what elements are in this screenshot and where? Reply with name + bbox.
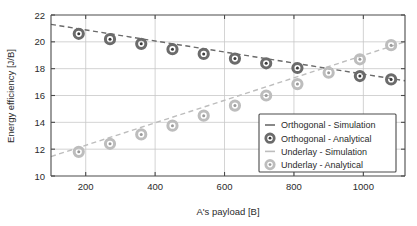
data-point-center	[265, 94, 268, 97]
legend-item-underlay-analytical[interactable]: Underlay - Analytical	[266, 160, 363, 170]
legend[interactable]: Orthogonal - SimulationOrthogonal - Anal…	[259, 114, 396, 172]
y-tick-label-10: 10	[34, 171, 45, 182]
x-tick-label-200: 200	[78, 181, 94, 192]
data-point-center	[296, 83, 299, 86]
data-point-center	[109, 142, 112, 145]
legend-item-underlay-simulation[interactable]: Underlay - Simulation	[265, 147, 367, 157]
y-tick-label-22: 22	[34, 10, 45, 21]
data-point-center	[265, 62, 268, 65]
data-point-center	[202, 52, 205, 55]
data-point-center	[202, 114, 205, 117]
data-point-center	[233, 104, 236, 107]
legend-label: Underlay - Simulation	[281, 147, 367, 157]
data-point-center	[327, 71, 330, 74]
data-point-center	[171, 124, 174, 127]
x-tick-label-600: 600	[217, 181, 233, 192]
legend-label: Orthogonal - Analytical	[281, 134, 372, 144]
y-tick-label-14: 14	[34, 117, 45, 128]
legend-circle-center	[269, 137, 272, 140]
data-point-center	[390, 44, 393, 47]
data-point-center	[233, 57, 236, 60]
x-axis-title: A's payload [B]	[196, 206, 259, 217]
data-point-center	[77, 32, 80, 35]
legend-circle-center	[269, 163, 272, 166]
data-point-center	[390, 78, 393, 81]
legend-item-orthogonal-simulation[interactable]: Orthogonal - Simulation	[265, 120, 376, 130]
data-point-center	[140, 133, 143, 136]
y-tick-label-20: 20	[34, 36, 45, 47]
data-point-center	[358, 75, 361, 78]
data-point-center	[358, 58, 361, 61]
energy-efficiency-chart: 10121416182022 2004006008001000 Energy e…	[0, 0, 417, 226]
data-point-center	[140, 42, 143, 45]
x-tick-label-1000: 1000	[353, 181, 374, 192]
legend-label: Underlay - Analytical	[281, 160, 363, 170]
data-point-center	[109, 38, 112, 41]
y-tick-label-18: 18	[34, 63, 45, 74]
data-point-center	[77, 150, 80, 153]
x-tick-label-800: 800	[286, 181, 302, 192]
y-axis-title: Energy efficiency [J/B]	[5, 49, 16, 143]
y-tick-label-12: 12	[34, 144, 45, 155]
data-point-center	[296, 66, 299, 69]
data-point-center	[171, 48, 174, 51]
legend-item-orthogonal-analytical[interactable]: Orthogonal - Analytical	[266, 134, 372, 144]
y-tick-label-16: 16	[34, 90, 45, 101]
legend-label: Orthogonal - Simulation	[281, 120, 376, 130]
x-tick-label-400: 400	[147, 181, 163, 192]
